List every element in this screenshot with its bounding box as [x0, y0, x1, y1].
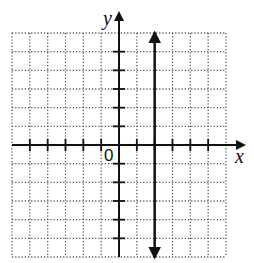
coordinate-plane: [0, 0, 254, 263]
x-axis-label: x: [235, 146, 244, 166]
y-axis-label: y: [103, 8, 112, 28]
origin-label: 0: [104, 147, 113, 164]
